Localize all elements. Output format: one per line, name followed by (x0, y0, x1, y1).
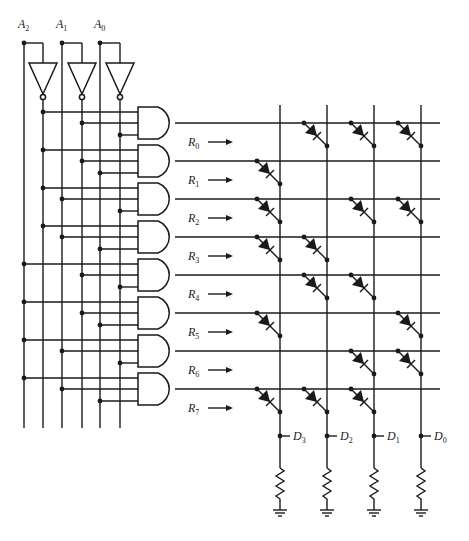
diode-icon (396, 349, 424, 377)
label-subscript: 6 (195, 370, 199, 379)
junction-dot (118, 133, 123, 138)
diode-icon (255, 159, 283, 187)
input-a0: A0 (93, 17, 134, 428)
junction-dot (118, 209, 123, 214)
ground-icon (367, 510, 381, 516)
diode-icon (255, 197, 283, 225)
label-subscript: 0 (443, 436, 447, 445)
and-gate-icon (138, 221, 169, 253)
diode-icon (396, 311, 424, 339)
decoder-rows: R0R1R2R3R4R5R6R7 (22, 107, 440, 417)
and-gate-icon (138, 145, 169, 177)
label-subscript: 3 (302, 436, 306, 445)
row-7: R7 (22, 373, 440, 417)
diode-icon (396, 197, 424, 225)
ground-icon (414, 510, 428, 516)
arrow-right-icon (226, 253, 233, 259)
diode-icon (349, 349, 377, 377)
input-label: A2 (17, 17, 29, 33)
label-subscript: 1 (195, 180, 199, 189)
junction-dot (22, 376, 27, 381)
row-label: R1 (187, 173, 199, 189)
diode-icon (349, 273, 377, 301)
output-d2: D2 (320, 105, 353, 516)
input-a2: A2 (17, 17, 57, 428)
junction-dot (80, 273, 85, 278)
junction-dot (41, 110, 46, 115)
label-subscript: 2 (195, 218, 199, 227)
inverter-gate-icon (106, 63, 134, 94)
diode-icon (255, 387, 283, 415)
and-gate-icon (138, 297, 169, 329)
row-label: R3 (187, 249, 199, 265)
label-subscript: 7 (195, 408, 199, 417)
label-subscript: 5 (195, 332, 199, 341)
diode-icon (302, 121, 330, 149)
diode-icon (349, 197, 377, 225)
junction-dot (60, 197, 65, 202)
arrow-right-icon (226, 215, 233, 221)
label-subscript: 1 (396, 436, 400, 445)
arrow-right-icon (226, 329, 233, 335)
output-d3: D3 (273, 105, 306, 516)
row-5: R5 (22, 297, 440, 341)
row-6: R6 (22, 335, 440, 379)
arrow-right-icon (226, 139, 233, 145)
diode-icon (349, 387, 377, 415)
junction-dot (22, 300, 27, 305)
junction-dot (41, 224, 46, 229)
output-columns: D3D2D1D0 (273, 105, 447, 516)
and-gate-icon (138, 259, 169, 291)
arrow-right-icon (226, 405, 233, 411)
inverter-gate-icon (29, 63, 57, 94)
diode-icon (349, 121, 377, 149)
inverter-bubble-icon (79, 94, 84, 99)
label-main: D (433, 429, 443, 443)
inverter-bubble-icon (117, 94, 122, 99)
junction-dot (118, 361, 123, 366)
label-subscript: 0 (101, 24, 105, 33)
and-gate-icon (138, 183, 169, 215)
decoder-rom-diagram: A2A1A0R0R1R2R3R4R5R6R7D3D2D1D0 (0, 0, 469, 541)
junction-dot (80, 311, 85, 316)
row-4: R4 (22, 259, 440, 303)
junction-dot (98, 171, 103, 176)
resistor-icon (276, 468, 284, 510)
and-gate-icon (138, 107, 169, 139)
row-label: R6 (187, 363, 199, 379)
label-main: D (386, 429, 396, 443)
diode-icon (255, 311, 283, 339)
junction-dot (41, 148, 46, 153)
arrow-right-icon (226, 291, 233, 297)
label-subscript: 2 (25, 24, 29, 33)
junction-dot (60, 349, 65, 354)
label-subscript: 4 (195, 294, 199, 303)
arrow-right-icon (226, 177, 233, 183)
resistor-icon (417, 468, 425, 510)
ground-icon (273, 510, 287, 516)
label-main: D (339, 429, 349, 443)
output-d1: D1 (367, 105, 400, 516)
output-label: D1 (386, 429, 400, 445)
junction-dot (22, 338, 27, 343)
label-subscript: 3 (195, 256, 199, 265)
resistor-icon (323, 468, 331, 510)
diode-icon (302, 235, 330, 263)
diode-icon (302, 273, 330, 301)
output-label: D2 (339, 429, 353, 445)
output-label: D0 (433, 429, 447, 445)
inverter-gate-icon (68, 63, 96, 94)
label-subscript: 2 (349, 436, 353, 445)
input-a1: A1 (55, 17, 96, 428)
row-label: R0 (187, 135, 199, 151)
junction-dot (80, 121, 85, 126)
label-subscript: 1 (63, 24, 67, 33)
junction-dot (41, 186, 46, 191)
output-d0: D0 (414, 105, 447, 516)
junction-dot (22, 262, 27, 267)
row-label: R2 (187, 211, 199, 227)
junction-dot (118, 285, 123, 290)
diode-icon (396, 121, 424, 149)
row-label: R7 (187, 401, 199, 417)
and-gate-icon (138, 335, 169, 367)
